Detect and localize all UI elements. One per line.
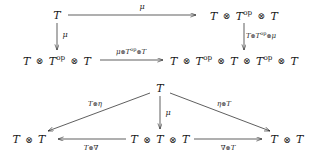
edge-label-triangle-vertical: μ xyxy=(165,109,170,117)
edge-label-text: μ xyxy=(139,2,144,11)
edge-label-square-right: T⊗Top⊗μ xyxy=(246,31,276,40)
node-text: T ⊗ T xyxy=(270,133,303,146)
node-text: T ⊗ T ⊗ T xyxy=(131,133,190,146)
edge-label-square-bottom: μ⊗Top⊗T xyxy=(116,47,146,56)
node-square-top-right: T ⊗ Top ⊗ T xyxy=(210,9,278,22)
edge-label-triangle-diag-left: T⊗η xyxy=(88,101,102,108)
edge-label-triangle-bottom-right: ∇⊗T xyxy=(221,145,236,152)
node-square-bottom-left: T ⊗ Top ⊗ T xyxy=(23,54,91,67)
node-triangle-bottom-center: T ⊗ T ⊗ T xyxy=(131,134,190,145)
node-text: T ⊗ Top ⊗ T ⊗ Top ⊗ T xyxy=(170,54,298,67)
node-text: T ⊗ Top ⊗ T xyxy=(23,54,91,67)
node-triangle-bottom-left: T ⊗ T xyxy=(12,134,45,145)
edge-label-triangle-bottom-left: T⊗∇ xyxy=(84,145,99,152)
node-text: T xyxy=(156,82,164,95)
node-square-bottom-right: T ⊗ Top ⊗ T ⊗ Top ⊗ T xyxy=(170,54,298,67)
edge-label-text: μ xyxy=(165,108,170,117)
node-triangle-bottom-right: T ⊗ T xyxy=(270,134,303,145)
edge-label-square-left: μ xyxy=(62,31,67,39)
edge-label-text: μ⊗Top⊗T xyxy=(116,49,146,57)
node-text: T xyxy=(53,9,61,22)
edge-label-text: μ xyxy=(62,30,67,39)
node-square-top-left: T xyxy=(53,10,61,21)
edge-label-triangle-diag-right: η⊗T xyxy=(217,101,231,108)
edge-label-text: T⊗η xyxy=(88,100,102,108)
edge-label-text: ∇⊗T xyxy=(221,144,236,152)
edge-label-text: T⊗∇ xyxy=(84,144,99,152)
edge-label-square-top: μ xyxy=(139,3,144,11)
node-text: T ⊗ T xyxy=(12,133,45,146)
diagram-canvas: T T ⊗ Top ⊗ T T ⊗ Top ⊗ T T ⊗ Top ⊗ T ⊗ … xyxy=(0,0,316,157)
node-triangle-apex: T xyxy=(156,83,164,94)
edge-label-text: η⊗T xyxy=(217,100,231,108)
edge-label-text: T⊗Top⊗μ xyxy=(246,33,276,41)
node-text: T ⊗ Top ⊗ T xyxy=(210,9,278,22)
